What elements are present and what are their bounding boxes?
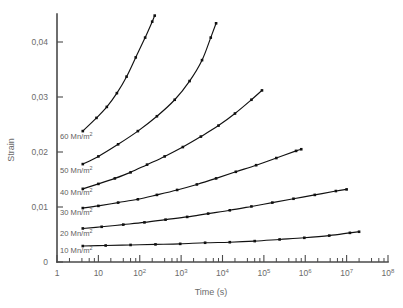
data-point [196,183,199,186]
chart-canvas: 110102103104105106107108 00,010,020,030,… [0,0,403,308]
x-tick-label-0: 1 [55,268,60,278]
curve-50-mn-m2 [83,23,216,164]
series-label-30-mn-m2: 30 Mn/m2 [60,207,93,217]
data-point [278,238,281,241]
x-tick-label-4: 104 [216,268,229,278]
data-point [114,177,117,180]
y-tick-label-1: 0,01 [31,202,48,212]
data-point [146,163,149,166]
data-point [235,171,238,174]
data-point [275,157,278,160]
data-point [97,205,100,208]
data-point [154,243,157,246]
data-point [95,117,98,120]
data-point [303,237,306,240]
data-point [129,171,132,174]
data-point [215,22,218,25]
data-point [250,98,253,101]
series-label-50-mn-m2: 50 Mn/m2 [60,165,93,175]
x-axis-title: Time (s) [195,287,228,297]
data-point [122,223,125,226]
data-point [261,89,264,92]
series-inline-labels: 60 Mn/m250 Mn/m240 Mn/m230 Mn/m220 Mn/m2… [60,131,93,255]
data-point [253,240,256,243]
data-point [292,197,295,200]
data-point [335,190,338,193]
data-point [228,241,231,244]
curve-40-mn-m2 [83,90,262,188]
data-point [104,244,107,247]
series-label-20-mn-m2: 20 Mn/m2 [60,228,93,238]
x-tick-label-2: 102 [133,268,146,278]
data-point [349,232,352,235]
x-tick-label-5: 105 [257,268,270,278]
data-point [125,75,128,78]
creep-strain-chart: 110102103104105106107108 00,010,020,030,… [0,0,403,308]
data-point [345,188,348,191]
y-tick-label-0: 0 [43,257,48,267]
data-point [295,150,298,153]
series-label-40-mn-m2: 40 Mn/m2 [60,187,93,197]
x-tick-label-3: 103 [175,268,188,278]
data-point [200,135,203,138]
data-point [134,56,137,59]
data-point [182,146,185,149]
data-point [207,212,210,215]
data-point [328,234,331,237]
y-axis-title: Strain [6,138,16,162]
series-label-10-mn-m2: 10 Mn/m2 [60,245,93,255]
data-point [100,226,103,229]
data-point [300,148,303,151]
data-point [250,205,253,208]
data-point [255,164,258,167]
y-axis-tick-labels: 00,010,020,030,04 [31,37,48,267]
data-point [179,243,182,246]
data-point [209,36,212,39]
data-point [97,183,100,186]
data-point [186,216,189,219]
x-tick-label-6: 106 [299,268,312,278]
data-point [117,143,120,146]
data-point [156,194,159,197]
data-point [228,209,231,212]
series-label-60-mn-m2: 60 Mn/m2 [60,131,93,141]
data-point-markers-group [81,14,360,247]
data-point [313,194,316,197]
data-point [271,201,274,204]
data-point [144,36,147,39]
data-point [358,230,361,233]
curve-series-group [83,16,359,246]
data-point [176,189,179,192]
curve-20-mn-m2 [83,189,347,228]
data-point [97,155,100,158]
data-point [153,14,156,17]
data-point [163,155,166,158]
data-point [137,130,140,133]
x-axis-tick-labels: 110102103104105106107108 [55,268,395,278]
data-point [188,80,191,83]
data-point [151,20,154,23]
data-point [129,244,132,247]
data-point [156,115,159,118]
data-point [117,201,120,204]
data-point [116,92,119,95]
data-point [164,218,167,221]
data-point [106,106,109,109]
data-point [143,221,146,224]
data-point [173,98,176,101]
data-point [81,163,84,166]
x-tick-label-7: 107 [340,268,353,278]
data-point [215,177,218,180]
data-point [217,124,220,127]
x-tick-label-8: 108 [382,268,395,278]
curve-60-mn-m2 [83,16,155,132]
y-tick-label-4: 0,04 [31,37,48,47]
curve-10-mn-m2 [83,232,359,246]
data-point [137,198,140,201]
x-tick-label-1: 10 [94,268,104,278]
y-tick-label-2: 0,02 [31,147,48,157]
data-point [234,112,237,115]
data-point [201,59,204,62]
y-tick-label-3: 0,03 [31,92,48,102]
axes-group [57,14,388,262]
